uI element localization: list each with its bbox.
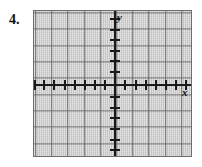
x-axis-tick [53, 80, 55, 90]
x-axis-tick [64, 80, 66, 90]
x-axis-label: x [182, 87, 188, 98]
y-axis-tick [110, 139, 120, 141]
y-axis-tick [110, 107, 120, 109]
x-axis-tick [165, 80, 167, 90]
y-axis-tick [110, 29, 120, 31]
y-axis-tick [110, 149, 120, 151]
y-axis-tick [110, 117, 120, 119]
problem-number: 4. [9, 13, 20, 27]
y-axis-label: y [117, 12, 122, 23]
coordinate-grid: y x [33, 10, 192, 157]
x-axis-tick [124, 80, 126, 90]
x-axis [34, 84, 191, 86]
x-axis-tick [135, 80, 137, 90]
x-axis-tick [145, 80, 147, 90]
x-axis-tick [104, 80, 106, 90]
y-axis-tick [110, 71, 120, 73]
y-axis-tick [110, 50, 120, 52]
x-axis-tick [175, 80, 177, 90]
y-axis-tick [110, 39, 120, 41]
x-axis-tick [84, 80, 86, 90]
y-axis-tick [110, 96, 120, 98]
worksheet-problem: 4. y x [0, 0, 202, 167]
x-axis-tick [74, 80, 76, 90]
y-axis-tick [110, 60, 120, 62]
x-axis-tick [34, 80, 36, 90]
x-axis-tick [94, 80, 96, 90]
x-axis-tick [43, 80, 45, 90]
y-axis-tick [110, 128, 120, 130]
x-axis-tick [155, 80, 157, 90]
y-axis [114, 11, 116, 156]
